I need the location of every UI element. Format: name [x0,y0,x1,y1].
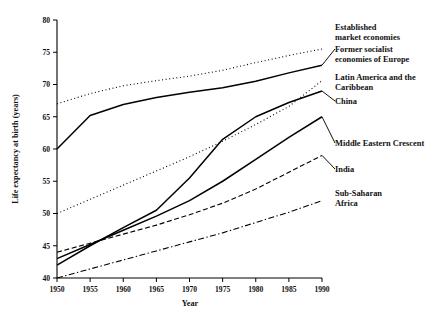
x-tick-label: 1990 [314,285,329,294]
leader-line-3 [322,91,335,101]
series-line-2 [57,81,322,214]
series-label-5: India [335,165,355,174]
x-axis-title: Year [182,299,199,308]
x-tick-label: 1965 [149,285,164,294]
series-labels: Establishedmarket economiesFormer social… [335,23,424,208]
leader-line-5 [322,155,335,169]
y-tick-label: 40 [42,274,50,283]
x-tick-label: 1960 [116,285,131,294]
x-tick-label: 1980 [248,285,263,294]
leader-line-4 [322,117,335,143]
x-tick-label: 1985 [281,285,296,294]
series-line-4 [57,117,322,259]
leader-line-1 [322,49,335,65]
chart-series-layer [57,49,322,278]
y-tick-label: 80 [42,16,50,25]
series-label-1: economies of Europe [335,55,410,64]
life-expectancy-line-chart: 404550556065707580 195019551960196519701… [0,0,446,323]
y-tick-label: 45 [42,242,50,251]
series-label-2: Latin America and the [335,73,416,82]
series-line-0 [57,49,322,104]
x-tick-label: 1975 [215,285,230,294]
y-tick-label: 70 [42,80,50,89]
series-label-1: Former socialist [335,45,393,54]
series-label-3: China [335,97,358,106]
x-tick-label: 1970 [182,285,197,294]
series-label-4: Middle Eastern Crescent [335,139,424,148]
x-tick-label: 1955 [83,285,98,294]
series-line-6 [57,201,322,278]
y-tick-label: 75 [42,48,50,57]
chart-figure: 404550556065707580 195019551960196519701… [0,0,446,323]
series-line-5 [57,155,322,252]
y-tick-label: 50 [42,209,50,218]
y-axis-ticks [53,20,57,278]
x-axis-tick-labels: 195019551960196519701975198019851990 [49,285,329,294]
y-tick-label: 65 [42,113,50,122]
series-line-1 [57,65,322,149]
series-label-6: Africa [335,199,359,208]
series-line-3 [57,91,322,265]
x-tick-label: 1950 [49,285,64,294]
y-axis-tick-labels: 404550556065707580 [42,16,50,283]
series-label-2: Caribbean [335,83,374,92]
series-label-6: Sub-Saharan [335,189,382,198]
series-label-0: Established [335,23,377,32]
series-label-0: market economies [335,33,401,42]
series-leader-lines [322,49,335,169]
y-tick-label: 60 [42,145,50,154]
y-tick-label: 55 [42,177,50,186]
y-axis-title: Life expectancy at birth (years) [11,94,20,204]
x-axis-ticks [57,278,322,282]
